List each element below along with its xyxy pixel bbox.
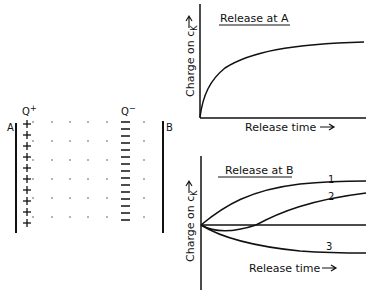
curve-3: [201, 225, 366, 253]
plate-b-label: B: [166, 122, 173, 133]
positive-charges: [23, 120, 31, 227]
capacitor-diagram: A B Q+ Q−: [7, 104, 173, 233]
curve-1: [201, 181, 366, 225]
negative-charges: [121, 122, 130, 220]
plate-a-label: A: [7, 122, 14, 133]
curve-label-1: 1: [328, 174, 334, 185]
y-axis-label: Charge on cK: [184, 25, 199, 97]
q-minus-label: Q−: [121, 104, 136, 117]
chart-release-at-b: Release at B 1 2 3 Release time Charge o…: [184, 156, 366, 290]
arrow-right-icon: [320, 124, 334, 130]
curve-label-2: 2: [328, 191, 334, 202]
y-axis-label: Charge on cK: [184, 190, 199, 262]
chart-title: Release at A: [220, 12, 289, 25]
curve-label-3: 3: [326, 241, 332, 252]
q-plus-label: Q+: [22, 104, 37, 117]
curve-a: [200, 42, 364, 117]
chart-title: Release at B: [225, 164, 294, 177]
arrow-right-icon: [322, 265, 336, 271]
chart-release-at-a: Release at A Release time Charge on cK: [184, 4, 366, 134]
x-axis-label: Release time: [245, 121, 317, 134]
x-axis-label: Release time: [249, 262, 321, 275]
